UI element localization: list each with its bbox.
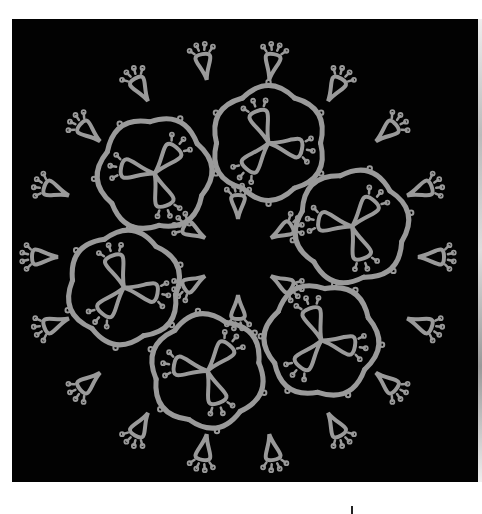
doily-photo [12, 19, 478, 482]
tatted-doily [12, 19, 478, 482]
crop-mark [351, 506, 353, 514]
page-edge [478, 19, 482, 482]
